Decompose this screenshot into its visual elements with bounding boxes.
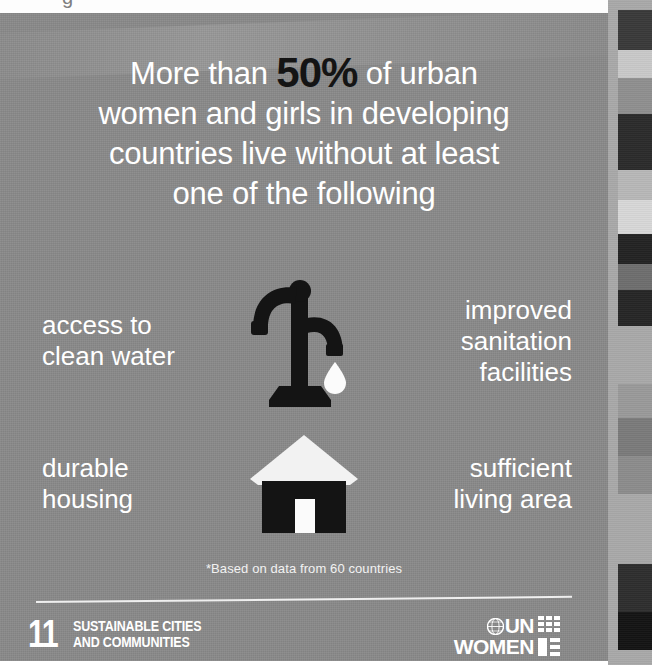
feature-label-clean-water: access to clean water [0,310,218,372]
unwomen-grid-mark-icon [538,616,578,658]
calibration-block [618,418,652,456]
calibration-block [618,264,652,290]
calibration-block [618,564,652,612]
sanitation-line-3: facilities [390,357,572,388]
headline-line-1: More than 50% of urban [0,53,608,94]
durable-housing-line-1: durable [42,453,218,484]
un-women-text-un: UN [505,614,534,637]
house-icon [246,429,362,539]
statistic-value: 50% [276,49,357,96]
sdg-goal-title: SUSTAINABLE CITIES AND COMMUNITIES [73,618,201,650]
un-women-wordmark: UN WOMEN [454,615,534,657]
calibration-block [618,78,652,114]
feature-row-housing: durable housing sufficient living area [0,421,608,546]
scan-top-margin: g [0,0,652,13]
un-women-logo: UN WOMEN [454,615,578,658]
living-area-line-2: living area [390,484,572,515]
headline-text-before-stat: More than [130,56,276,91]
grayscale-calibration-strip [608,0,652,665]
sanitation-line-1: improved [390,295,572,326]
calibration-block [618,50,652,78]
calibration-block [618,456,652,494]
sdg-goal-number: 11 [28,617,57,651]
clipped-text-glyph: g [62,0,73,7]
page-title: More than 50% of urban women and girls i… [0,53,608,214]
calibration-block [618,494,652,564]
calibration-block [618,290,652,326]
sdg-11-logo: 11 SUSTAINABLE CITIES AND COMMUNITIES [28,617,222,651]
poster-body: More than 50% of urban women and girls i… [0,13,608,661]
living-area-line-1: sufficient [390,453,572,484]
water-pump-icon-wrap [218,266,390,416]
un-women-line-1: UN [454,615,534,636]
durable-housing-line-2: housing [42,484,218,515]
un-women-line-2: WOMEN [454,636,534,657]
calibration-block [618,234,652,264]
headline-line-4: one of the following [0,174,608,214]
calibration-block [618,170,652,200]
feature-row-water: access to clean water [0,261,608,421]
divider-rule [36,596,572,603]
calibration-block [618,114,652,170]
clean-water-line-1: access to [42,310,218,341]
house-icon-wrap [218,429,390,539]
sanitation-line-2: sanitation [390,326,572,357]
headline-line-3: countries live without at least [0,134,608,174]
sdg-goal-title-line-1: SUSTAINABLE CITIES [73,618,201,634]
footer: 11 SUSTAINABLE CITIES AND COMMUNITIES UN… [0,613,608,661]
calibration-block [618,612,652,650]
feature-label-durable-housing: durable housing [0,453,218,515]
clean-water-line-2: clean water [42,341,218,372]
un-emblem-icon [487,618,504,635]
calibration-block [618,326,652,384]
feature-label-living-area: sufficient living area [390,453,608,515]
calibration-block [618,384,652,418]
water-pump-icon [245,266,363,416]
headline-line-2: women and girls in developing [0,94,608,134]
calibration-block [618,200,652,234]
infographic-page: g More than 50% of urban women and girls… [0,0,652,665]
headline-text-after-stat: of urban [357,56,478,91]
sdg-goal-title-line-2: AND COMMUNITIES [73,634,201,650]
feature-label-sanitation: improved sanitation facilities [390,295,608,388]
footnote: *Based on data from 60 countries [0,561,608,576]
calibration-block [618,10,652,50]
